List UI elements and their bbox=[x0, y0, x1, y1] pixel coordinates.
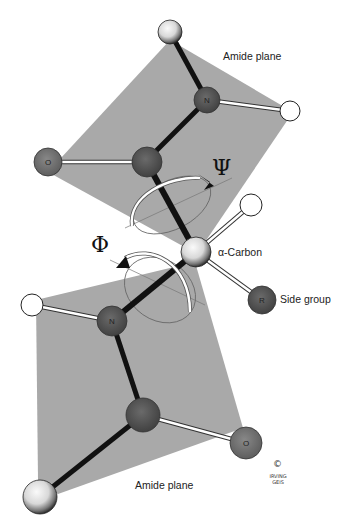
amide-plane-top-label: Amide plane bbox=[223, 50, 281, 62]
alpha-carbon-atom bbox=[181, 237, 211, 267]
hydrogen-alpha-atom bbox=[240, 194, 262, 216]
oxygen-top-label: O bbox=[45, 158, 51, 167]
alpha-carbon-label: α-Carbon bbox=[218, 246, 262, 258]
hydrogen-bottom-atom bbox=[21, 294, 43, 316]
artist-signature: IRVING GEIS bbox=[266, 473, 290, 485]
side-group-label: Side group bbox=[280, 293, 331, 305]
carbon-top-atom bbox=[158, 20, 182, 44]
nitrogen-bottom-label: N bbox=[109, 317, 115, 326]
carbonyl-carbon-top-atom bbox=[132, 147, 162, 177]
nitrogen-top-label: N bbox=[204, 96, 210, 105]
hydrogen-top-atom bbox=[280, 101, 300, 121]
carbon-bottom-atom bbox=[23, 480, 57, 514]
upper-amide-plane bbox=[48, 40, 293, 250]
psi-symbol: Ψ bbox=[212, 155, 231, 180]
oxygen-bottom-label: O bbox=[243, 439, 249, 448]
r-group-label: R bbox=[259, 296, 265, 305]
peptide-diagram: N O R N O bbox=[0, 0, 349, 529]
amide-plane-bottom-label: Amide plane bbox=[135, 479, 193, 491]
copyright-symbol: © bbox=[273, 459, 282, 469]
carbonyl-carbon-bottom-atom bbox=[126, 398, 160, 432]
phi-symbol: Φ bbox=[91, 232, 109, 257]
